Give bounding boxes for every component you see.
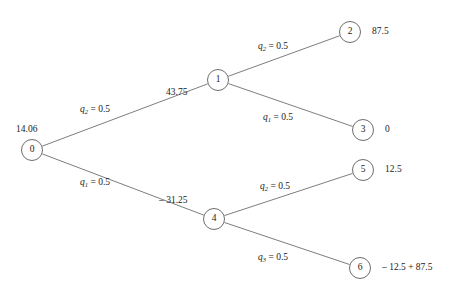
edge-label-1-3: q1 = 0.5	[263, 113, 293, 123]
edge-label-equals: =	[88, 177, 98, 187]
node-value-4: – 31.25	[159, 196, 188, 206]
node-value-3: 0	[385, 125, 390, 135]
edge-label-probability: 0.5	[98, 104, 110, 114]
edge-label-subscript: 2	[263, 45, 266, 52]
node-value-0: 14.06	[16, 125, 37, 135]
tree-edge-0-4	[42, 154, 203, 215]
edge-label-subscript: 1	[268, 116, 271, 123]
tree-node-3[interactable]: 3	[352, 119, 374, 141]
tree-node-6[interactable]: 6	[349, 257, 371, 279]
edge-label-1-2: q2 = 0.5	[258, 42, 288, 52]
edge-label-subscript: 2	[265, 185, 268, 192]
edge-label-probability: 0.5	[98, 177, 110, 187]
decision-tree-diagram: 0123456 14.0643.7587.50– 31.2512.5– 12.5…	[0, 0, 452, 294]
edge-label-0-1: q2 = 0.5	[80, 105, 110, 115]
node-value-2: 87.5	[372, 27, 389, 37]
edge-label-probability: 0.5	[276, 41, 288, 51]
tree-edge-4-5	[224, 173, 352, 215]
edge-label-probability: 0.5	[276, 252, 288, 262]
tree-node-0[interactable]: 0	[21, 139, 43, 161]
edge-label-subscript: 1	[85, 181, 88, 188]
node-value-5: 12.5	[385, 165, 402, 175]
edge-label-0-4: q1 = 0.5	[80, 178, 110, 188]
edge-label-equals: =	[266, 252, 276, 262]
edge-label-equals: =	[268, 181, 278, 191]
node-value-6: – 12.5 + 87.5	[382, 263, 432, 273]
edge-label-equals: =	[266, 41, 276, 51]
edge-label-subscript: 3	[263, 256, 266, 263]
edge-label-subscript: 2	[85, 108, 88, 115]
edge-label-4-5: q2 = 0.5	[260, 182, 290, 192]
tree-node-1[interactable]: 1	[207, 69, 229, 91]
tree-node-5[interactable]: 5	[352, 159, 374, 181]
edge-label-equals: =	[88, 104, 98, 114]
tree-edges-layer	[0, 0, 452, 294]
node-value-1: 43.75	[166, 88, 187, 98]
tree-node-4[interactable]: 4	[203, 208, 225, 230]
edge-label-equals: =	[271, 112, 281, 122]
edge-label-probability: 0.5	[281, 112, 293, 122]
edge-label-probability: 0.5	[278, 181, 290, 191]
edge-label-4-6: q3 = 0.5	[258, 253, 288, 263]
tree-node-2[interactable]: 2	[339, 21, 361, 43]
